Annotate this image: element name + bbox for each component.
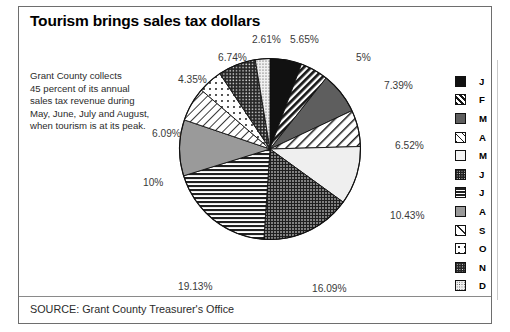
page-title: Tourism brings sales tax dollars [30, 12, 260, 30]
legend-swatch-icon [455, 206, 466, 217]
legend-swatch-icon [455, 113, 466, 124]
legend-item[interactable]: A [455, 202, 487, 221]
pie-value-label: 19.13% [178, 281, 213, 292]
legend-divider [497, 60, 498, 300]
legend-swatch-icon [455, 150, 466, 161]
legend-label: O [479, 243, 486, 254]
legend-item[interactable]: J [455, 184, 487, 203]
legend-item[interactable]: J [455, 72, 487, 91]
pie-value-label: 6.52% [395, 140, 424, 151]
source-divider [19, 296, 491, 297]
blurb-line: Grant County collects [30, 70, 182, 83]
legend-swatch-icon [455, 243, 466, 254]
pie-value-label: 6.09% [152, 128, 181, 139]
legend-item[interactable]: M [455, 109, 487, 128]
legend-label: F [479, 94, 485, 105]
legend-item[interactable]: J [455, 165, 487, 184]
legend-label: J [479, 187, 484, 198]
legend-item[interactable]: S [455, 221, 487, 240]
pie-value-label: 5% [356, 52, 371, 63]
blurb-line: 45 percent of its annual [30, 83, 182, 96]
legend: JFMAMJJASOND [455, 72, 487, 295]
legend-swatch-icon [455, 76, 466, 87]
legend-swatch-icon [455, 132, 466, 143]
legend-item[interactable]: D [455, 277, 487, 296]
legend-label: J [479, 169, 484, 180]
legend-swatch-icon [455, 169, 466, 180]
pie-value-label: 6.74% [218, 52, 247, 63]
pie-slices [180, 58, 361, 239]
blurb-text: Grant County collects 45 percent of its … [30, 70, 182, 133]
legend-item[interactable]: A [455, 128, 487, 147]
source-text: SOURCE: Grant County Treasurer's Office [30, 303, 234, 315]
pie-value-label: 4.35% [178, 74, 207, 85]
pie-value-label: 7.39% [384, 80, 413, 91]
legend-label: S [479, 225, 485, 236]
legend-item[interactable]: F [455, 91, 487, 110]
legend-label: M [479, 150, 487, 161]
legend-label: J [479, 76, 484, 87]
pie-value-label: 5.65% [290, 34, 319, 45]
legend-label: N [479, 262, 486, 273]
legend-swatch-icon [455, 280, 466, 291]
legend-swatch-icon [455, 94, 466, 105]
legend-swatch-icon [455, 262, 466, 273]
legend-item[interactable]: O [455, 239, 487, 258]
pie-value-label: 2.61% [252, 34, 281, 45]
legend-item[interactable]: N [455, 258, 487, 277]
blurb-line: May, June, July and August, [30, 108, 182, 121]
legend-label: A [479, 132, 486, 143]
legend-label: M [479, 113, 487, 124]
pie-value-label: 10% [143, 177, 163, 188]
pie-value-label: 10.43% [390, 210, 425, 221]
blurb-line: sales tax revenue during [30, 95, 182, 108]
legend-item[interactable]: M [455, 146, 487, 165]
pie-value-label: 16.09% [312, 283, 347, 294]
legend-swatch-icon [455, 187, 466, 198]
legend-swatch-icon [455, 225, 466, 236]
legend-label: D [479, 280, 486, 291]
legend-label: A [479, 206, 486, 217]
